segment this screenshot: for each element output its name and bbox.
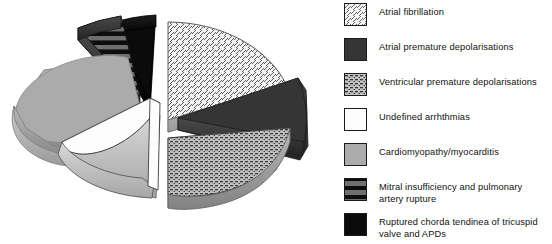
legend-item-ventricular-premature-depolarisations[interactable]: Ventricular premature depolarisations <box>344 73 537 96</box>
swatch-grey-solid-icon <box>344 143 367 166</box>
legend-label: Atrial fibrillation <box>379 3 444 19</box>
swatch-diagonal-hatch-icon <box>344 3 367 26</box>
swatch-white-solid-icon <box>344 108 367 131</box>
swatch-black-solid-icon <box>344 213 367 236</box>
legend-label: Atrial premature depolarisations <box>379 38 513 54</box>
swatch-dark-solid-icon <box>344 38 367 61</box>
legend-item-atrial-premature-depolarisations[interactable]: Atrial premature depolarisations <box>344 38 513 61</box>
pie-chart-canvas <box>0 0 340 244</box>
legend-label: Cardiomyopathy/myocarditis <box>379 143 499 159</box>
legend-item-ruptured-chorda-tendinea[interactable]: Ruptured chorda tendinea of tricuspid va… <box>344 213 538 240</box>
legend-label: Mitral insufficiency and pulmonary arter… <box>379 178 522 205</box>
legend-label: Undefined arrhthmias <box>379 108 470 124</box>
swatch-dotted-icon <box>344 73 367 96</box>
swatch-horizontal-stripes-icon <box>344 178 367 201</box>
pie-slice-ventricular-premature-depolarisations <box>168 128 290 209</box>
legend-item-mitral-insufficiency[interactable]: Mitral insufficiency and pulmonary arter… <box>344 178 522 205</box>
legend-item-cardiomyopathy-myocarditis[interactable]: Cardiomyopathy/myocarditis <box>344 143 499 166</box>
legend-label: Ventricular premature depolarisations <box>379 73 537 89</box>
chart-legend: Atrial fibrillation Atrial premature dep… <box>344 0 552 244</box>
legend-label: Ruptured chorda tendinea of tricuspid va… <box>379 213 538 240</box>
legend-item-undefined-arrhthmias[interactable]: Undefined arrhthmias <box>344 108 470 131</box>
pie-chart-figure: Atrial fibrillation Atrial premature dep… <box>0 0 552 244</box>
legend-item-atrial-fibrillation[interactable]: Atrial fibrillation <box>344 3 444 26</box>
pie-chart-graphic <box>0 0 340 244</box>
